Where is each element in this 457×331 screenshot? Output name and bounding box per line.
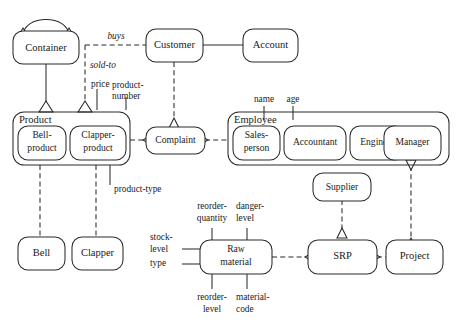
attribute-label-product-number-line1: product- [112, 80, 144, 90]
attribute-label-stock-level-line1: stock- [150, 232, 173, 242]
entity-complaint-label: Complaint [155, 134, 196, 145]
attribute-label-age: age [287, 94, 300, 104]
attribute-label-product-number-line2: number [112, 91, 141, 101]
entity-account-label: Account [253, 39, 289, 50]
entity-bell-label: Bell [33, 247, 51, 258]
attribute-label-type: type [150, 258, 166, 268]
entity-customer-label: Customer [154, 39, 195, 50]
entity-project-label: Project [400, 250, 430, 261]
arrowhead-product-from-container [39, 101, 53, 112]
entity-container-label: Container [25, 42, 67, 53]
entity-salesperson-label-line2: person [244, 142, 270, 153]
entity-manager-label: Manager [395, 136, 430, 147]
entity-salesperson-label-line1: Sales- [245, 129, 268, 140]
group-employee-label: Employee [234, 114, 277, 125]
entity-supplier-label: Supplier [326, 181, 359, 192]
entity-raw-material-label-line2: material [220, 256, 252, 267]
attribute-label-danger-level-line2: level [236, 213, 254, 223]
attribute-label-material-code-line2: code [236, 304, 254, 314]
entity-raw-material-label-line1: Raw [227, 243, 245, 254]
arrowhead-srp-from-supplier [337, 228, 347, 238]
entity-bell-product-label-line2: product [27, 142, 57, 153]
attribute-label-danger-level-line1: danger- [236, 201, 264, 211]
relationship-label-sold-to: sold-to [90, 60, 116, 70]
entity-accountant-label: Accountant [293, 136, 338, 147]
arrowhead-product-from-soldto [78, 101, 92, 112]
relationship-label-buys: buys [107, 31, 124, 41]
entity-clapper-label: Clapper [81, 247, 115, 258]
attribute-label-product-type: product-type [114, 184, 162, 194]
entity-bell-product-label-line1: Bell- [32, 129, 51, 140]
er-diagram-svg: Container Customer Account Product Bell-… [0, 0, 457, 331]
entity-srp-label: SRP [333, 250, 352, 261]
entity-clapper-product-label-line1: Clapper- [81, 129, 114, 140]
entity-clapper-product-label-line2: product [83, 142, 113, 153]
attribute-label-price: price [91, 79, 110, 89]
attribute-label-stock-level-line2: level [150, 244, 168, 254]
er-diagram-canvas: Container Customer Account Product Bell-… [0, 0, 457, 331]
attribute-label-reorder-level-line1: reorder- [197, 292, 227, 302]
attribute-label-reorder-quantity-line1: reorder- [197, 201, 227, 211]
attribute-label-reorder-level-line2: level [203, 304, 221, 314]
attribute-label-material-code-line1: material- [236, 292, 270, 302]
attribute-label-name: name [254, 94, 274, 104]
attribute-label-reorder-quantity-line2: quantity [197, 213, 228, 223]
group-product-label: Product [19, 114, 52, 125]
